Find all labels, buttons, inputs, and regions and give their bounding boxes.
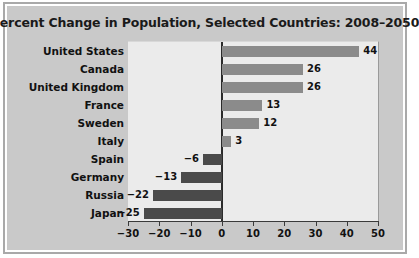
x-axis-tick (378, 222, 379, 226)
bar (222, 118, 260, 129)
category-label: Sweden (78, 115, 125, 131)
bar-value-label: 13 (266, 99, 280, 111)
x-axis-tick-label: 0 (207, 228, 237, 239)
bar-value-label: 12 (263, 117, 277, 129)
x-axis-tick (191, 222, 192, 226)
bar-value-label: 44 (363, 45, 377, 57)
bar (153, 190, 222, 201)
x-axis-tick (347, 222, 348, 226)
x-axis-tick (159, 222, 160, 226)
x-axis-tick (284, 222, 285, 226)
category-label: Spain (91, 151, 124, 167)
bar-value-label: −25 (117, 207, 139, 219)
x-axis-tick-label: 30 (301, 228, 331, 239)
bar (222, 100, 263, 111)
bar (222, 82, 303, 93)
chart-title-band: Percent Change in Population, Selected C… (8, 7, 402, 37)
x-axis-tick-label: 50 (363, 228, 393, 239)
x-axis-tick-label: −20 (144, 228, 174, 239)
category-axis-labels: United StatesCanadaUnited KingdomFranceS… (8, 37, 128, 250)
x-axis-tick (222, 222, 223, 226)
bar (222, 64, 303, 75)
category-label: Russia (85, 187, 124, 203)
chart-body: United StatesCanadaUnited KingdomFranceS… (8, 37, 402, 250)
category-label: France (84, 97, 124, 113)
x-axis-tick (316, 222, 317, 226)
bar (203, 154, 222, 165)
x-axis-tick-label: 20 (269, 228, 299, 239)
bar-value-label: 26 (307, 81, 321, 93)
category-label: United States (43, 43, 124, 59)
bar-value-label: 26 (307, 63, 321, 75)
bar-value-label: −13 (155, 171, 177, 183)
bar (222, 136, 231, 147)
x-axis-tick (253, 222, 254, 226)
bar (144, 208, 222, 219)
bar (222, 46, 360, 57)
category-label: Canada (80, 61, 124, 77)
category-label: Germany (71, 169, 124, 185)
category-label: United Kingdom (29, 79, 124, 95)
bar (181, 172, 222, 183)
plot-area: 44262613123−6−13−22−25 (128, 41, 379, 222)
page-title: Percent Change in Population, Selected C… (0, 15, 419, 30)
bar-value-label: −6 (184, 153, 199, 165)
x-axis-tick-label: 40 (332, 228, 362, 239)
x-axis-tick-label: −10 (176, 228, 206, 239)
bar-value-label: −22 (127, 189, 149, 201)
x-axis-tick (128, 222, 129, 226)
x-axis-tick-label: 10 (238, 228, 268, 239)
category-label: Italy (98, 133, 124, 149)
bar-value-label: 3 (235, 135, 242, 147)
x-axis-tick-label: −30 (113, 228, 143, 239)
